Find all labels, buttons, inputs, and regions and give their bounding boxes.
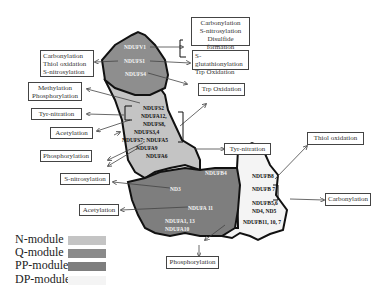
subunit-label-q: NDUFA6 (146, 153, 168, 159)
modification-box-sglutathionylation-trp: S-glutathionylation Trp Oxidation (192, 50, 249, 70)
modification-box-thiol-oxidation: Thiol oxidation (307, 132, 364, 145)
mod-label: Thiol oxidation (43, 60, 91, 68)
mod-label: Thiol oxidation (314, 134, 357, 142)
mod-label: Acetylation (83, 206, 116, 214)
subunit-label-q: NDUFA12, (141, 113, 167, 119)
legend-swatch-q-module (68, 249, 106, 258)
modification-box-acetylation-top: Acetylation (50, 127, 93, 139)
mod-label: Trp Oxidation (195, 68, 246, 76)
modification-box-carbonylation-snitrosylation-disulfide: Carbonylation S-nitrosylation Disulfide … (191, 17, 250, 46)
modification-box-carbonylation-thiol-snitrosylation: Carbonylation Thiol oxidation S-nitrosyl… (40, 50, 94, 77)
modification-box-phosphorylation-bottom: Phosphorylation (166, 256, 219, 269)
modification-box-carbonylation-right: Carbonylation (325, 193, 371, 206)
mod-label: Carbonylation (328, 195, 368, 203)
mod-label: Tyr-nitration (230, 145, 266, 153)
subunit-label-q: NDUFS7; NDUFA5 (122, 137, 168, 143)
mod-label: S-nitrosylation (194, 27, 247, 35)
mod-label: Disulfide formation (194, 35, 247, 51)
subunit-label-pp: NDUFA1, 13 (165, 218, 195, 224)
mod-label: Methylation (31, 84, 79, 92)
mod-label: Phosphorylation (170, 258, 216, 266)
legend-label-pp-module: PP-module (15, 258, 68, 273)
mod-label: Trp Oxidation (202, 85, 242, 93)
subunit-label-q: NDUFS8, (143, 121, 165, 127)
subunit-label-pp: NDUFA 11 (188, 205, 213, 211)
subunit-label-pp: ND3 (170, 186, 181, 192)
subunit-label-n: NDUFS1 (124, 58, 145, 64)
legend-swatch-n-module (68, 236, 106, 245)
mod-label: Carbonylation (194, 19, 247, 27)
subunit-label-n: NDUFS4 (125, 71, 146, 77)
mod-label: S-glutathionylation (195, 52, 246, 68)
mod-label: S-nitrosylation (64, 175, 106, 183)
subunit-label-n: NDUFV1 (124, 44, 146, 50)
subunit-label-pp: NDUFA10 (165, 226, 189, 232)
mod-label: Phosphorylation (43, 152, 89, 160)
mod-label: Carbonylation (43, 52, 91, 60)
mod-label: Acetylation (55, 129, 88, 137)
subunit-label-dp: NDUFB8 (252, 173, 274, 179)
subunit-label-dp: NDUFB5,6 (252, 200, 278, 206)
modification-box-tyr-nitration-left: Tyr-nitration (31, 108, 82, 120)
modification-box-acetylation-bottom: Acetylation (79, 204, 119, 216)
subunit-label-q: NDUFS3,4 (134, 129, 159, 135)
subunit-label-dp: ND4, ND5 (252, 208, 276, 214)
modification-box-methylation-phosphorylation: Methylation Phosphorylation (28, 82, 82, 101)
subunit-label-dp: NDUFB 7 (252, 186, 275, 192)
subunit-label-dp: NDUFB11, 10, 7 (243, 219, 281, 225)
subunit-label-pp: NDUFB4 (205, 170, 227, 176)
modification-box-tyr-nitration-right: Tyr-nitration (224, 143, 271, 155)
modification-box-trp-oxidation: Trp Oxidation (198, 83, 245, 96)
subunit-label-q: NDUFA9 (136, 145, 158, 151)
legend-swatch-pp-module (68, 262, 106, 271)
mod-label: S-nitrosylation (43, 68, 91, 76)
subunit-label-q: NDUFS2 (143, 105, 164, 111)
modification-box-s-nitrosylation: S-nitrosylation (60, 173, 110, 185)
modification-box-phosphorylation-left: Phosphorylation (40, 150, 92, 162)
legend-swatch-dp-module (68, 276, 106, 285)
mod-label: Tyr-nitration (39, 110, 75, 118)
mod-label: Phosphorylation (31, 92, 79, 100)
